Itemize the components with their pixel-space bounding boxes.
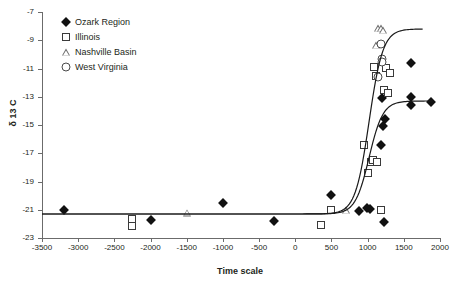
y-axis-title: δ 13 C bbox=[8, 78, 18, 148]
x-tick-label: -2000 bbox=[131, 243, 171, 252]
open-triangle-icon bbox=[62, 47, 71, 56]
data-point bbox=[317, 221, 325, 229]
y-tick-label: -21 bbox=[8, 205, 34, 214]
y-tick-label: -23 bbox=[8, 233, 34, 242]
y-tick bbox=[38, 125, 42, 126]
data-point bbox=[373, 158, 381, 166]
data-point bbox=[342, 207, 350, 214]
data-point bbox=[218, 198, 228, 208]
data-point bbox=[384, 89, 392, 97]
x-tick-label: -3500 bbox=[22, 243, 62, 252]
x-tick bbox=[331, 238, 332, 242]
legend-item-west-virginia[interactable]: West Virginia bbox=[62, 59, 137, 74]
x-tick-label: -1500 bbox=[167, 243, 207, 252]
data-point bbox=[377, 40, 386, 49]
y-tick bbox=[38, 97, 42, 98]
x-tick-label: 1500 bbox=[384, 243, 424, 252]
y-tick bbox=[38, 12, 42, 13]
x-tick bbox=[223, 238, 224, 242]
data-point bbox=[370, 63, 378, 71]
x-axis-title: Time scale bbox=[140, 266, 340, 276]
data-point bbox=[59, 206, 69, 216]
y-tick bbox=[38, 40, 42, 41]
y-tick-label: -17 bbox=[8, 148, 34, 157]
data-point bbox=[426, 97, 436, 107]
x-tick bbox=[187, 238, 188, 242]
open-circle-icon bbox=[62, 62, 71, 71]
y-tick bbox=[38, 153, 42, 154]
x-tick bbox=[295, 238, 296, 242]
data-point bbox=[406, 58, 416, 68]
legend-item-label: Nashville Basin bbox=[75, 47, 137, 57]
legend-item-label: West Virginia bbox=[75, 62, 128, 72]
x-tick-label: -2500 bbox=[94, 243, 134, 252]
y-tick-label: -9 bbox=[8, 35, 34, 44]
data-point bbox=[378, 58, 387, 67]
y-tick-label: -11 bbox=[8, 64, 34, 73]
x-tick bbox=[151, 238, 152, 242]
x-tick bbox=[259, 238, 260, 242]
x-tick-label: -3000 bbox=[58, 243, 98, 252]
legend-item-label: Illinois bbox=[75, 32, 100, 42]
data-point bbox=[374, 72, 383, 81]
x-tick-label: 2000 bbox=[420, 243, 455, 252]
legend-item-label: Ozark Region bbox=[75, 17, 130, 27]
x-tick-label: 0 bbox=[275, 243, 315, 252]
legend-item-nashville-basin[interactable]: Nashville Basin bbox=[62, 44, 137, 59]
x-tick-label: -1000 bbox=[203, 243, 243, 252]
chart-container: -7-9-11-13-15-17-19-21-23-3500-3000-2500… bbox=[0, 0, 455, 286]
x-tick bbox=[368, 238, 369, 242]
data-point bbox=[386, 69, 394, 77]
chart-legend: Ozark RegionIllinoisNashville BasinWest … bbox=[62, 14, 137, 74]
data-point bbox=[377, 206, 385, 214]
data-point bbox=[327, 190, 337, 200]
data-point bbox=[379, 217, 389, 227]
x-tick bbox=[440, 238, 441, 242]
data-point bbox=[128, 222, 136, 230]
x-tick-label: -500 bbox=[239, 243, 279, 252]
data-point bbox=[146, 215, 156, 225]
data-point bbox=[376, 140, 386, 150]
data-point bbox=[406, 100, 416, 110]
y-tick bbox=[38, 182, 42, 183]
x-tick bbox=[42, 238, 43, 242]
filled-diamond-icon bbox=[62, 17, 71, 26]
y-tick-label: -19 bbox=[8, 177, 34, 186]
x-tick bbox=[114, 238, 115, 242]
y-tick-label: -7 bbox=[8, 7, 34, 16]
data-point bbox=[364, 169, 372, 177]
data-point bbox=[269, 216, 279, 226]
x-axis-line bbox=[42, 238, 441, 239]
y-tick bbox=[38, 69, 42, 70]
data-point bbox=[360, 141, 368, 149]
y-axis-line bbox=[42, 12, 43, 239]
legend-item-ozark-region[interactable]: Ozark Region bbox=[62, 14, 137, 29]
x-tick-label: 500 bbox=[311, 243, 351, 252]
y-tick bbox=[38, 210, 42, 211]
open-square-icon bbox=[62, 32, 71, 41]
x-tick bbox=[78, 238, 79, 242]
x-tick-label: 1000 bbox=[348, 243, 388, 252]
data-point bbox=[327, 206, 335, 214]
x-tick bbox=[404, 238, 405, 242]
data-point bbox=[379, 27, 387, 34]
legend-item-illinois[interactable]: Illinois bbox=[62, 29, 137, 44]
data-point bbox=[183, 209, 191, 216]
